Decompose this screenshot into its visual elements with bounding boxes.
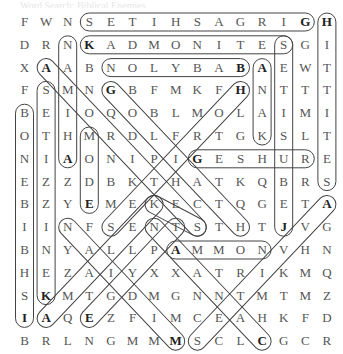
- grid-cell[interactable]: Y: [58, 194, 78, 214]
- grid-cell[interactable]: N: [15, 149, 35, 169]
- grid-cell[interactable]: T: [317, 58, 337, 78]
- grid-cell[interactable]: N: [36, 240, 56, 260]
- grid-cell[interactable]: S: [317, 172, 337, 192]
- grid-cell[interactable]: L: [231, 331, 251, 351]
- grid-cell[interactable]: K: [144, 194, 164, 214]
- grid-cell[interactable]: K: [36, 286, 56, 306]
- grid-cell[interactable]: Z: [317, 286, 337, 306]
- grid-cell[interactable]: G: [295, 12, 315, 32]
- grid-cell[interactable]: T: [252, 217, 272, 237]
- grid-cell[interactable]: Y: [166, 58, 186, 78]
- grid-cell[interactable]: M: [79, 126, 99, 146]
- grid-cell[interactable]: G: [231, 12, 251, 32]
- grid-cell[interactable]: L: [295, 126, 315, 146]
- grid-cell[interactable]: M: [209, 240, 229, 260]
- grid-cell[interactable]: A: [101, 35, 121, 55]
- grid-cell[interactable]: I: [209, 35, 229, 55]
- grid-cell[interactable]: M: [166, 308, 186, 328]
- grid-cell[interactable]: M: [187, 103, 207, 123]
- grid-cell[interactable]: C: [187, 308, 207, 328]
- grid-cell[interactable]: S: [101, 217, 121, 237]
- grid-cell[interactable]: Y: [123, 263, 143, 283]
- grid-cell[interactable]: N: [58, 217, 78, 237]
- grid-cell[interactable]: R: [36, 35, 56, 55]
- grid-cell[interactable]: R: [295, 149, 315, 169]
- grid-cell[interactable]: K: [274, 263, 294, 283]
- grid-cell[interactable]: Q: [58, 308, 78, 328]
- grid-cell[interactable]: A: [209, 12, 229, 32]
- grid-cell[interactable]: M: [144, 286, 164, 306]
- grid-cell[interactable]: F: [209, 80, 229, 100]
- grid-cell[interactable]: Q: [317, 263, 337, 283]
- grid-cell[interactable]: K: [274, 308, 294, 328]
- grid-cell[interactable]: E: [252, 35, 272, 55]
- grid-cell[interactable]: T: [317, 126, 337, 146]
- grid-cell[interactable]: H: [231, 217, 251, 237]
- grid-cell[interactable]: I: [123, 149, 143, 169]
- grid-cell[interactable]: W: [295, 58, 315, 78]
- grid-cell[interactable]: T: [144, 172, 164, 192]
- grid-cell[interactable]: F: [295, 308, 315, 328]
- grid-cell[interactable]: I: [274, 103, 294, 123]
- grid-cell[interactable]: G: [101, 331, 121, 351]
- grid-cell[interactable]: T: [36, 126, 56, 146]
- grid-cell[interactable]: G: [187, 149, 207, 169]
- grid-cell[interactable]: T: [231, 286, 251, 306]
- grid-cell[interactable]: A: [58, 58, 78, 78]
- grid-cell[interactable]: H: [166, 12, 186, 32]
- grid-cell[interactable]: G: [252, 194, 272, 214]
- grid-cell[interactable]: T: [274, 286, 294, 306]
- grid-cell[interactable]: M: [295, 103, 315, 123]
- grid-cell[interactable]: R: [101, 126, 121, 146]
- grid-cell[interactable]: T: [317, 80, 337, 100]
- grid-cell[interactable]: M: [187, 240, 207, 260]
- grid-cell[interactable]: Z: [36, 194, 56, 214]
- grid-cell[interactable]: Q: [231, 194, 251, 214]
- grid-cell[interactable]: E: [36, 103, 56, 123]
- grid-cell[interactable]: U: [274, 149, 294, 169]
- word-search-grid[interactable]: FWNSETIHSAGRIGHDRNKADMONITESGIXAABNOLYBA…: [0, 0, 343, 354]
- grid-cell[interactable]: N: [317, 240, 337, 260]
- grid-cell[interactable]: O: [79, 149, 99, 169]
- grid-cell[interactable]: G: [101, 80, 121, 100]
- grid-cell[interactable]: A: [187, 263, 207, 283]
- grid-cell[interactable]: K: [123, 172, 143, 192]
- grid-cell[interactable]: M: [58, 80, 78, 100]
- grid-cell[interactable]: S: [79, 12, 99, 32]
- grid-cell[interactable]: T: [166, 217, 186, 237]
- grid-cell[interactable]: E: [36, 263, 56, 283]
- grid-cell[interactable]: I: [317, 35, 337, 55]
- grid-cell[interactable]: L: [166, 103, 186, 123]
- grid-cell[interactable]: R: [231, 263, 251, 283]
- grid-cell[interactable]: H: [231, 80, 251, 100]
- grid-cell[interactable]: N: [252, 80, 272, 100]
- grid-cell[interactable]: N: [144, 217, 164, 237]
- grid-cell[interactable]: O: [209, 103, 229, 123]
- grid-cell[interactable]: V: [274, 240, 294, 260]
- grid-cell[interactable]: N: [187, 286, 207, 306]
- grid-cell[interactable]: I: [15, 217, 35, 237]
- grid-cell[interactable]: O: [123, 58, 143, 78]
- grid-cell[interactable]: M: [123, 331, 143, 351]
- grid-cell[interactable]: B: [274, 172, 294, 192]
- grid-cell[interactable]: A: [252, 58, 272, 78]
- grid-cell[interactable]: O: [15, 126, 35, 146]
- grid-cell[interactable]: K: [187, 80, 207, 100]
- grid-cell[interactable]: N: [252, 240, 272, 260]
- grid-cell[interactable]: G: [166, 286, 186, 306]
- grid-cell[interactable]: H: [15, 263, 35, 283]
- grid-cell[interactable]: I: [166, 149, 186, 169]
- grid-cell[interactable]: C: [209, 331, 229, 351]
- grid-cell[interactable]: W: [36, 12, 56, 32]
- grid-cell[interactable]: F: [166, 126, 186, 146]
- grid-cell[interactable]: N: [101, 149, 121, 169]
- grid-cell[interactable]: D: [123, 286, 143, 306]
- grid-cell[interactable]: G: [231, 126, 251, 146]
- grid-cell[interactable]: T: [209, 172, 229, 192]
- grid-cell[interactable]: T: [295, 80, 315, 100]
- grid-cell[interactable]: B: [79, 58, 99, 78]
- grid-cell[interactable]: L: [144, 58, 164, 78]
- grid-cell[interactable]: M: [144, 35, 164, 55]
- grid-cell[interactable]: R: [187, 126, 207, 146]
- grid-cell[interactable]: K: [252, 126, 272, 146]
